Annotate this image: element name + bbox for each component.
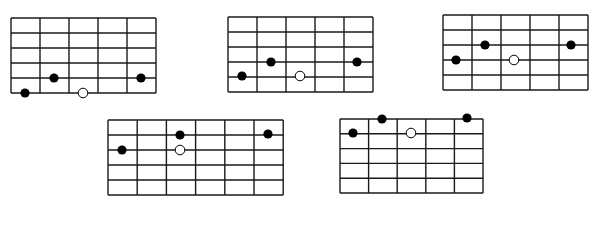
filled-note-dot (566, 40, 575, 49)
filled-note-dot (451, 55, 460, 64)
filled-note-dot (20, 88, 29, 97)
diagram-5 (340, 113, 483, 193)
diagram-canvas (0, 0, 596, 226)
diagram-4 (108, 120, 283, 195)
root-note-open-dot (509, 55, 519, 65)
root-note-open-dot (175, 145, 185, 155)
filled-note-dot (136, 73, 145, 82)
filled-note-dot (266, 57, 275, 66)
filled-note-dot (117, 145, 126, 154)
root-note-open-dot (78, 88, 88, 98)
filled-note-dot (352, 57, 361, 66)
root-note-open-dot (295, 71, 305, 81)
filled-note-dot (348, 128, 357, 137)
filled-note-dot (263, 129, 272, 138)
diagram-2 (228, 17, 373, 92)
filled-note-dot (462, 113, 471, 122)
fretboard-diagrams-figure (0, 0, 596, 226)
filled-note-dot (49, 73, 58, 82)
diagram-1 (11, 18, 156, 98)
root-note-open-dot (406, 128, 416, 138)
filled-note-dot (237, 71, 246, 80)
filled-note-dot (480, 40, 489, 49)
filled-note-dot (175, 130, 184, 139)
diagram-3 (443, 15, 588, 90)
filled-note-dot (377, 114, 386, 123)
